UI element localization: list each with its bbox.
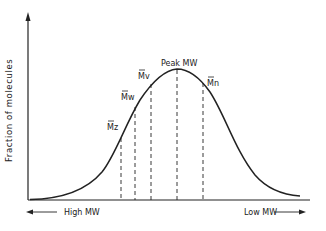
right-arrow-icon (299, 210, 306, 215)
mn-label: Mn (207, 79, 219, 88)
peak-label: Peak MW (161, 59, 197, 68)
y-axis-label: Fraction of molecules (4, 59, 14, 162)
high-mw-label: High MW (64, 208, 100, 217)
left-arrow-icon (26, 210, 33, 215)
mz-label: Mz (107, 123, 118, 132)
mw-label: Mw (121, 93, 135, 102)
marker-lines (121, 70, 203, 200)
mw-distribution-diagram: Mz Mw Mv Peak MW Mn Fraction of molecule… (0, 0, 326, 231)
distribution-curve (30, 69, 300, 200)
mv-label: Mv (138, 72, 150, 81)
y-axis-arrow-icon (26, 12, 31, 21)
low-mw-label: Low MW (244, 208, 277, 217)
